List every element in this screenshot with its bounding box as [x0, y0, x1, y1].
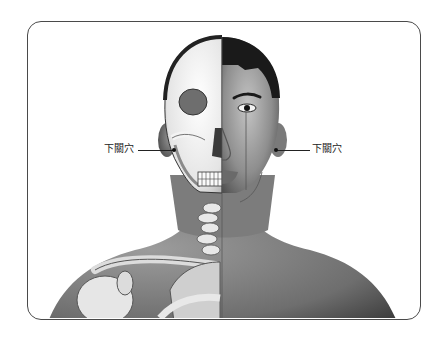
acupoint-marker-right	[274, 148, 278, 152]
acupoint-label-right: 下關穴	[312, 143, 342, 155]
anatomy-illustration	[0, 0, 444, 339]
acupoint-label-left: 下關穴	[104, 143, 134, 155]
acupoint-marker-left	[172, 148, 176, 152]
leader-line-left	[138, 150, 174, 151]
leader-line-right	[276, 150, 310, 151]
